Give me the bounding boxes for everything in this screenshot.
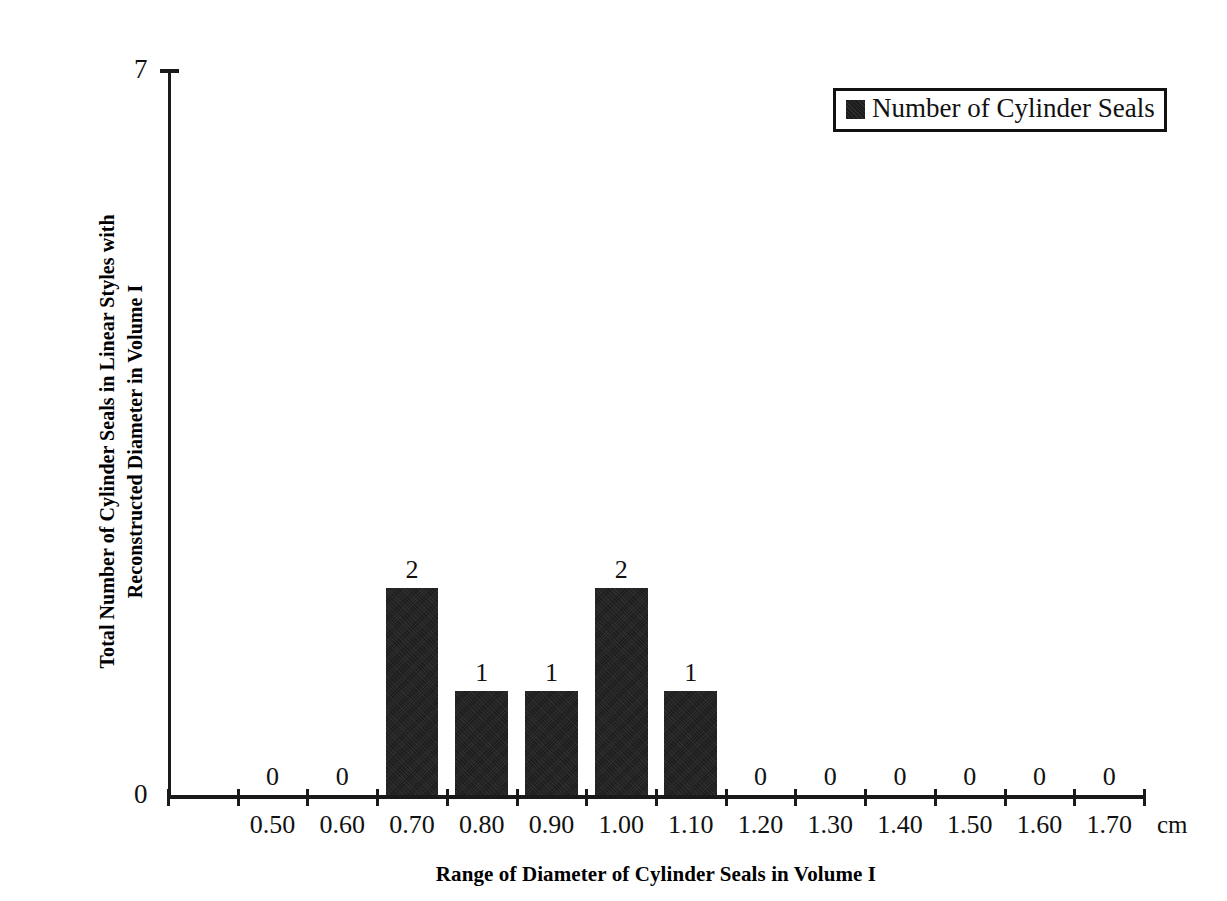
x-axis-tick (1004, 789, 1007, 806)
x-axis-tick (585, 789, 588, 806)
x-axis-tick (237, 789, 240, 806)
bar-value-label: 0 (233, 764, 313, 790)
x-axis-tick (934, 789, 937, 806)
x-axis-unit-label: cm (1157, 812, 1188, 837)
bar-value-label: 0 (1069, 764, 1149, 790)
bar-value-label: 0 (860, 764, 940, 790)
bar-value-label: 1 (442, 660, 522, 686)
y-axis-line (168, 70, 171, 799)
y-axis-title-line-2: Reconstructed Diameter in Volume I (121, 71, 149, 811)
x-axis-tick (516, 789, 519, 806)
bar-value-label: 0 (930, 764, 1010, 790)
bar-value-label: 2 (581, 557, 661, 583)
bar-value-label: 0 (999, 764, 1079, 790)
x-axis-tick (376, 789, 379, 806)
x-axis-tick (167, 789, 170, 806)
bar (525, 691, 578, 795)
bar-value-label: 0 (302, 764, 382, 790)
bar-value-label: 1 (511, 660, 591, 686)
bar (386, 588, 439, 795)
bar (664, 691, 717, 795)
y-axis-title: Total Number of Cylinder Seals in Linear… (93, 71, 150, 811)
bar-value-label: 0 (721, 764, 801, 790)
filled-square-icon (846, 100, 865, 119)
bar-value-label: 0 (790, 764, 870, 790)
x-axis-tick (306, 789, 309, 806)
x-axis-tick (1143, 789, 1146, 806)
x-axis-title: Range of Diameter of Cylinder Seals in V… (168, 862, 1144, 887)
bar (455, 691, 508, 795)
bar-value-label: 2 (372, 557, 452, 583)
x-axis-tick (794, 789, 797, 806)
x-axis-tick-label: 1.70 (1054, 812, 1164, 838)
x-axis-tick (655, 789, 658, 806)
legend-item-label: Number of Cylinder Seals (872, 95, 1155, 122)
chart-page: 7 0 0021121000000 0.500.600.700.800.901.… (0, 0, 1227, 901)
x-axis-tick (446, 789, 449, 806)
bar (595, 588, 648, 795)
plot-area: 7 0 0021121000000 0.500.600.700.800.901.… (0, 0, 1227, 901)
x-axis-tick (864, 789, 867, 806)
legend[interactable]: Number of Cylinder Seals (833, 88, 1167, 132)
bar-value-label: 1 (651, 660, 731, 686)
x-axis-tick (1073, 789, 1076, 806)
y-axis-title-line-1: Total Number of Cylinder Seals in Linear… (93, 71, 121, 811)
x-axis-tick (725, 789, 728, 806)
y-axis-top-tick (160, 69, 179, 73)
